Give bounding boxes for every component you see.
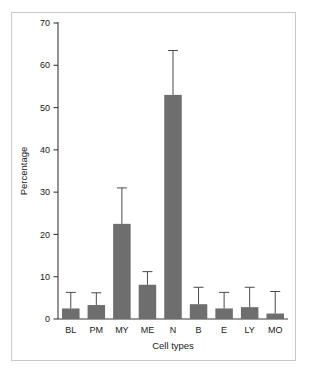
x-axis-tick-label-b: B bbox=[196, 325, 202, 335]
x-axis-tick-label-n: N bbox=[170, 325, 177, 335]
bar-b bbox=[190, 304, 208, 319]
bar-ly bbox=[241, 307, 259, 319]
bar-chart: 010203040506070PercentageBLPMMYMENBELYMO… bbox=[0, 0, 310, 373]
bar-my bbox=[113, 224, 131, 319]
y-axis-tick-label: 60 bbox=[40, 60, 50, 70]
x-axis-tick-label-my: MY bbox=[115, 325, 129, 335]
y-axis-tick-label: 0 bbox=[45, 314, 50, 324]
bar-mo bbox=[266, 314, 284, 319]
x-axis-tick-label-me: ME bbox=[141, 325, 155, 335]
bar-pm bbox=[88, 305, 106, 319]
y-axis-tick-label: 20 bbox=[40, 230, 50, 240]
bar-n bbox=[164, 95, 182, 319]
x-axis-tick-label-e: E bbox=[221, 325, 227, 335]
x-axis-tick-label-pm: PM bbox=[90, 325, 104, 335]
bar-bl bbox=[62, 308, 80, 319]
y-axis-title: Percentage bbox=[18, 147, 29, 196]
figure-container: 010203040506070PercentageBLPMMYMENBELYMO… bbox=[0, 0, 310, 373]
y-axis-tick-label: 40 bbox=[40, 145, 50, 155]
bar-me bbox=[139, 285, 157, 319]
y-axis-tick-label: 30 bbox=[40, 187, 50, 197]
y-axis-tick-label: 10 bbox=[40, 272, 50, 282]
y-axis-tick-label: 50 bbox=[40, 103, 50, 113]
x-axis-tick-label-ly: LY bbox=[244, 325, 254, 335]
x-axis-tick-label-bl: BL bbox=[65, 325, 76, 335]
bar-e bbox=[215, 308, 233, 319]
y-axis-tick-label: 70 bbox=[40, 18, 50, 28]
x-axis-tick-label-mo: MO bbox=[268, 325, 283, 335]
x-axis-title: Cell types bbox=[152, 340, 194, 351]
